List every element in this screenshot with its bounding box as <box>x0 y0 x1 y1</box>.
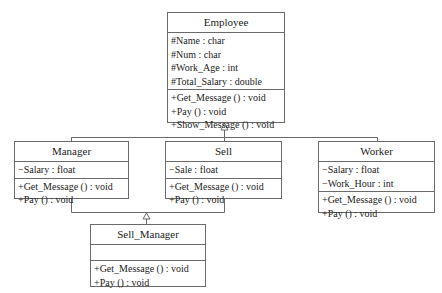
methods-section: +Get_Message () : void +Pay () : void <box>91 261 205 290</box>
class-sell[interactable]: Sell −Sale : float +Get_Message () : voi… <box>165 141 282 199</box>
method: +Get_Message () : void <box>169 180 281 194</box>
method: +Pay () : void <box>18 193 128 207</box>
attributes-section: #Name : char #Num : char #Work_Age : int… <box>168 33 284 90</box>
attributes-section: −Salary : float <box>15 162 128 179</box>
class-name: Sell_Manager <box>91 225 205 245</box>
class-employee[interactable]: Employee #Name : char #Num : char #Work_… <box>167 12 285 123</box>
class-name: Worker <box>319 142 434 162</box>
attribute: #Num : char <box>171 48 284 62</box>
attributes-section: −Salary : float −Work_Hour : int <box>319 162 434 192</box>
class-name: Manager <box>15 142 128 162</box>
methods-section: +Get_Message () : void +Pay () : void <box>166 179 281 208</box>
method: +Pay () : void <box>169 193 281 207</box>
method: +Get_Message () : void <box>322 193 434 207</box>
attribute: #Name : char <box>171 34 284 48</box>
method: +Get_Message () : void <box>94 262 205 276</box>
attribute: −Salary : float <box>18 163 128 177</box>
class-name: Sell <box>166 142 281 162</box>
attribute: −Work_Hour : int <box>322 177 434 191</box>
method: +Pay () : void <box>171 105 284 119</box>
class-manager[interactable]: Manager −Salary : float +Get_Message () … <box>14 141 129 199</box>
method: +Show_Message () : void <box>171 118 284 132</box>
methods-section: +Get_Message () : void +Pay () : void +S… <box>168 90 284 133</box>
attribute: #Total_Salary : double <box>171 75 284 89</box>
attribute: −Salary : float <box>322 163 434 177</box>
methods-section: +Get_Message () : void +Pay () : void <box>319 192 434 221</box>
generalization-arrow-sell-manager <box>143 213 150 219</box>
attribute: −Sale : float <box>169 163 281 177</box>
method: +Pay () : void <box>94 276 205 290</box>
attributes-section <box>91 245 205 261</box>
class-sell-manager[interactable]: Sell_Manager +Get_Message () : void +Pay… <box>90 224 206 287</box>
methods-section: +Get_Message () : void +Pay () : void <box>15 179 128 208</box>
class-worker[interactable]: Worker −Salary : float −Work_Hour : int … <box>318 141 435 213</box>
method: +Pay () : void <box>322 207 434 221</box>
method: +Get_Message () : void <box>171 91 284 105</box>
class-name: Employee <box>168 13 284 33</box>
attribute: #Work_Age : int <box>171 61 284 75</box>
attributes-section: −Sale : float <box>166 162 281 179</box>
method: +Get_Message () : void <box>18 180 128 194</box>
